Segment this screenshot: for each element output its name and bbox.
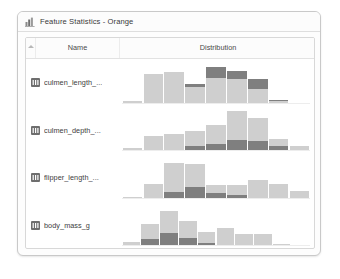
histogram-bin[interactable] (141, 205, 160, 247)
row-name-cell[interactable]: culmen_length_... (26, 59, 120, 107)
row-name-cell[interactable]: body_mass_g (26, 202, 120, 250)
histogram (122, 110, 310, 152)
histogram-bin[interactable] (164, 157, 185, 199)
table-row[interactable]: flipper_length_... (26, 154, 314, 202)
histogram-bin[interactable] (289, 110, 310, 152)
row-distribution-cell[interactable] (120, 59, 314, 107)
numeric-variable-icon (31, 126, 40, 135)
histogram-segment-light (185, 164, 205, 187)
window-titlebar[interactable]: Feature Statistics - Orange (18, 12, 320, 32)
numeric-variable-icon (31, 78, 40, 87)
feature-statistics-table: Name Distribution culmen_length_... (25, 37, 315, 249)
histogram-segment-dark (206, 67, 226, 78)
histogram (122, 62, 310, 104)
histogram-bin[interactable] (206, 110, 227, 152)
histogram-segment-light (198, 232, 215, 243)
histogram-bin[interactable] (143, 110, 164, 152)
histogram-segment-light (141, 224, 158, 239)
feature-name: body_mass_g (44, 221, 90, 230)
histogram-bin[interactable] (206, 62, 227, 104)
histogram-bin[interactable] (164, 110, 185, 152)
histogram-bin[interactable] (143, 157, 164, 199)
histogram-bin[interactable] (178, 205, 197, 247)
histogram-bin[interactable] (197, 205, 216, 247)
histogram-bin[interactable] (226, 62, 247, 104)
histogram-bin[interactable] (291, 205, 310, 247)
histogram-bin[interactable] (235, 205, 254, 247)
bar-chart-icon (25, 17, 35, 27)
histogram-baseline (122, 103, 310, 104)
histogram-segment-light (185, 131, 205, 147)
histogram-segment-light (248, 118, 268, 141)
histogram-segment-light (185, 87, 205, 104)
histogram-segment-light (164, 163, 184, 192)
histogram-bin[interactable] (185, 62, 206, 104)
histogram-segment-light (269, 139, 289, 146)
sort-ascending-icon (28, 45, 34, 48)
histogram-bin[interactable] (268, 110, 289, 152)
table-row[interactable]: culmen_depth_... (26, 107, 314, 155)
histogram-baseline (122, 150, 310, 151)
histogram-bin[interactable] (122, 157, 143, 199)
row-name-cell[interactable]: culmen_depth_... (26, 107, 120, 155)
histogram-baseline (122, 245, 310, 246)
histogram-segment-light (179, 221, 196, 238)
histogram-bin[interactable] (122, 205, 141, 247)
histogram-segment-light (144, 184, 164, 198)
table-body: culmen_length_... (26, 59, 314, 249)
histogram-segment-dark (227, 71, 247, 79)
histogram-segment-light (206, 185, 226, 193)
histogram-bin[interactable] (254, 205, 273, 247)
table-header-row: Name Distribution (26, 38, 314, 59)
histogram-segment-light (144, 74, 164, 104)
histogram-bin[interactable] (206, 157, 227, 199)
column-header-name[interactable]: Name (36, 38, 120, 58)
histogram-bin[interactable] (226, 110, 247, 152)
histogram-segment-light (269, 184, 289, 198)
row-distribution-cell[interactable] (120, 202, 314, 250)
histogram-segment-light (248, 180, 268, 198)
window-title: Feature Statistics - Orange (40, 17, 133, 26)
table-row[interactable]: culmen_length_... (26, 59, 314, 107)
histogram-segment-light (227, 185, 247, 196)
numeric-variable-icon (31, 221, 40, 230)
histogram-bin[interactable] (164, 62, 185, 104)
feature-name: flipper_length_... (44, 173, 99, 182)
histogram-segment-light (160, 211, 177, 233)
histogram-bin[interactable] (143, 62, 164, 104)
row-name-cell[interactable]: flipper_length_... (26, 154, 120, 202)
numeric-variable-icon (31, 173, 40, 182)
histogram-bin[interactable] (185, 110, 206, 152)
histogram (122, 157, 310, 199)
column-header-distribution[interactable]: Distribution (121, 38, 315, 58)
histogram-bin[interactable] (272, 205, 291, 247)
header-corner-cell[interactable] (26, 38, 36, 58)
histogram-segment-light (227, 79, 247, 103)
feature-name: culmen_depth_... (44, 126, 101, 135)
histogram-bin[interactable] (122, 110, 143, 152)
histogram-segment-light (248, 89, 268, 103)
histogram-bin[interactable] (122, 62, 143, 104)
histogram-bin[interactable] (289, 62, 310, 104)
row-distribution-cell[interactable] (120, 154, 314, 202)
histogram-segment-dark (248, 79, 268, 89)
screenshot-root: Feature Statistics - Orange Name Distrib… (0, 0, 340, 279)
feature-name: culmen_length_... (44, 78, 102, 87)
histogram-bin[interactable] (226, 157, 247, 199)
histogram-segment-light (164, 134, 184, 151)
feature-statistics-window: Feature Statistics - Orange Name Distrib… (17, 11, 321, 256)
row-distribution-cell[interactable] (120, 107, 314, 155)
histogram-bin[interactable] (185, 157, 206, 199)
histogram-bin[interactable] (268, 62, 289, 104)
histogram-bin[interactable] (247, 157, 268, 199)
histogram-bin[interactable] (247, 110, 268, 152)
histogram-segment-light (144, 136, 164, 151)
histogram-bin[interactable] (216, 205, 235, 247)
histogram-segment-light (164, 72, 184, 104)
histogram-bin[interactable] (289, 157, 310, 199)
histogram-baseline (122, 198, 310, 199)
histogram-bin[interactable] (160, 205, 179, 247)
table-row[interactable]: body_mass_g (26, 202, 314, 250)
histogram-bin[interactable] (268, 157, 289, 199)
histogram-bin[interactable] (247, 62, 268, 104)
